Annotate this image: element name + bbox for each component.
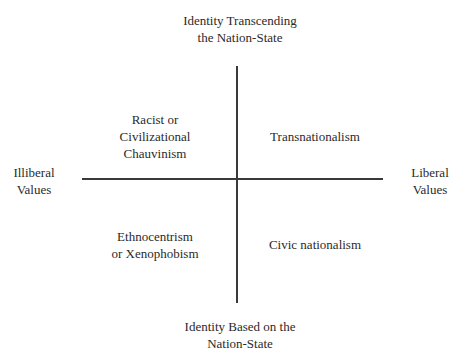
quadrant-top-left: Racist or Civilizational Chauvinism bbox=[95, 111, 215, 162]
vertical-axis-line bbox=[236, 66, 238, 303]
axis-label-bottom: Identity Based on the Nation-State bbox=[140, 318, 340, 352]
quadrant-bottom-left: Ethnocentrism or Xenophobism bbox=[95, 228, 215, 262]
axis-label-right: Liberal Values bbox=[398, 164, 462, 198]
horizontal-axis-line bbox=[82, 178, 383, 180]
quadrant-bottom-right: Civic nationalism bbox=[250, 236, 380, 253]
axis-label-left: Illiberal Values bbox=[4, 164, 64, 198]
axis-label-top: Identity Transcending the Nation-State bbox=[140, 12, 340, 46]
quadrant-top-right: Transnationalism bbox=[250, 128, 380, 145]
